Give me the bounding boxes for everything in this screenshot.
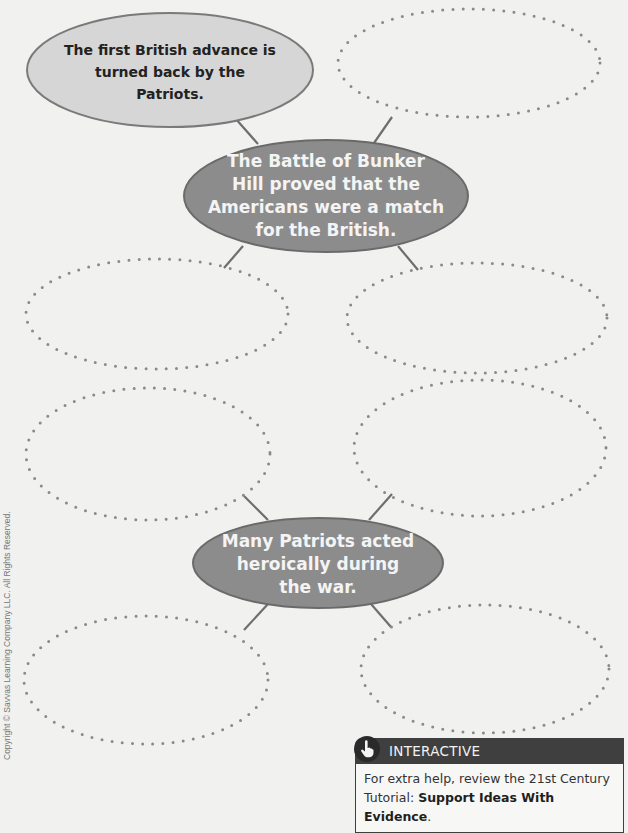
interactive-card-body: For extra help, review the 21st Century … [355, 764, 624, 833]
detail-line: turned back by the Patriots. [60, 61, 280, 105]
interactive-card-title: INTERACTIVE [389, 743, 480, 759]
main-idea-line: heroically during [222, 553, 415, 576]
interactive-card-header: INTERACTIVE [355, 738, 624, 764]
detail-oval-7-empty[interactable] [24, 616, 268, 744]
card-body-suffix: . [427, 809, 431, 824]
hand-pointer-icon [354, 736, 380, 762]
detail-oval-5-empty[interactable] [26, 388, 270, 520]
connector-line [374, 117, 392, 143]
main-idea-line: the war. [222, 576, 415, 599]
main-idea-text-1: The Battle of Bunker Hill proved that th… [196, 146, 456, 246]
detail-oval-3-empty[interactable] [26, 259, 288, 369]
connector-line [224, 246, 243, 268]
connector-line [244, 604, 268, 630]
detail-text-1: The first British advance is turned back… [60, 42, 280, 102]
main-idea-line: Americans were a match [208, 196, 444, 219]
connector-line [371, 604, 391, 627]
main-idea-line: The Battle of Bunker [208, 150, 444, 173]
main-idea-line: Many Patriots acted [222, 530, 415, 553]
detail-oval-2-empty[interactable] [338, 9, 600, 117]
connector-line [398, 246, 418, 270]
copyright-notice: Copyright © Savvas Learning Company LLC.… [2, 540, 12, 760]
main-idea-line: for the British. [208, 219, 444, 242]
interactive-card[interactable]: INTERACTIVE For extra help, review the 2… [355, 738, 624, 833]
connector-line [244, 496, 268, 520]
detail-oval-4-empty[interactable] [347, 263, 607, 373]
connector-line [369, 494, 392, 520]
detail-oval-8-empty[interactable] [361, 605, 609, 733]
connector-line [235, 118, 258, 144]
main-idea-line: Hill proved that the [208, 173, 444, 196]
main-idea-text-2: Many Patriots acted heroically during th… [208, 527, 428, 601]
detail-line: The first British advance is [60, 39, 280, 61]
